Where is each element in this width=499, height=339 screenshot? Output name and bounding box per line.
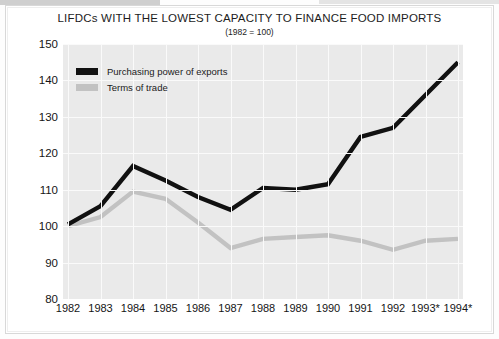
x-axis-tick-label: 1985 bbox=[153, 302, 177, 314]
y-axis-tick-label: 110 bbox=[14, 184, 58, 196]
x-axis-tick-label: 1991 bbox=[348, 302, 372, 314]
y-axis-tick-label: 120 bbox=[14, 147, 58, 159]
y-axis-tick-label: 100 bbox=[14, 220, 58, 232]
x-axis-tick-label: 1986 bbox=[186, 302, 210, 314]
gridline-vertical bbox=[296, 44, 297, 299]
y-axis-tick-label: 140 bbox=[14, 74, 58, 86]
x-axis-tick-label: 1992 bbox=[381, 302, 405, 314]
x-axis-tick-label: 1988 bbox=[251, 302, 275, 314]
legend-item: Terms of trade bbox=[76, 79, 276, 95]
legend-label: Terms of trade bbox=[107, 82, 168, 93]
legend-swatch-icon bbox=[76, 68, 98, 75]
legend-label: Purchasing power of exports bbox=[107, 66, 227, 77]
gridline-vertical bbox=[426, 44, 427, 299]
x-axis-tick-label: 1987 bbox=[218, 302, 242, 314]
gridline-vertical bbox=[361, 44, 362, 299]
x-axis-tick-label: 1994* bbox=[444, 302, 473, 314]
x-axis-tick-label: 1984 bbox=[121, 302, 145, 314]
legend: Purchasing power of exportsTerms of trad… bbox=[76, 63, 276, 95]
chart-title: LIFDCs WITH THE LOWEST CAPACITY TO FINAN… bbox=[0, 12, 499, 24]
legend-swatch-icon bbox=[76, 84, 98, 91]
gridline-vertical bbox=[458, 44, 459, 299]
y-axis-tick-label: 150 bbox=[14, 38, 58, 50]
gridline-vertical bbox=[393, 44, 394, 299]
x-axis-tick-label: 1983 bbox=[88, 302, 112, 314]
y-axis-tick-label: 130 bbox=[14, 111, 58, 123]
y-axis-ticks: 8090100110120130140150 bbox=[10, 44, 58, 299]
x-axis-ticks: 1982198319841985198619871988198919901991… bbox=[63, 302, 463, 322]
gridline-vertical bbox=[328, 44, 329, 299]
y-axis-tick-label: 90 bbox=[14, 257, 58, 269]
y-axis-tick-label: 80 bbox=[14, 293, 58, 305]
legend-item: Purchasing power of exports bbox=[76, 63, 276, 79]
x-axis-tick-label: 1993* bbox=[411, 302, 440, 314]
title-block: LIFDCs WITH THE LOWEST CAPACITY TO FINAN… bbox=[0, 12, 499, 37]
x-axis-tick-label: 1989 bbox=[283, 302, 307, 314]
gridline-vertical bbox=[68, 44, 69, 299]
chart-figure: LIFDCs WITH THE LOWEST CAPACITY TO FINAN… bbox=[0, 0, 499, 339]
x-axis-tick-label: 1990 bbox=[316, 302, 340, 314]
x-axis-tick-label: 1982 bbox=[56, 302, 80, 314]
scan-artifact-top-right bbox=[319, 0, 499, 4]
chart-subtitle: (1982 = 100) bbox=[0, 27, 499, 37]
